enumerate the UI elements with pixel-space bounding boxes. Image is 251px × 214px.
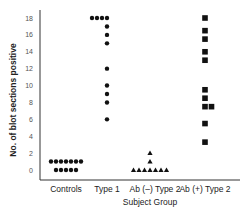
circle-marker (95, 16, 99, 20)
circle-marker (69, 168, 73, 172)
circle-marker (49, 159, 53, 163)
y-tick-label: 8 (29, 99, 33, 106)
y-tick-label: 10 (25, 82, 33, 89)
y-tick-label: 14 (25, 48, 33, 55)
circle-marker (105, 16, 109, 20)
y-axis-label: No. of blot sections positive (8, 43, 18, 157)
square-marker (202, 49, 208, 55)
y-tick-label: 4 (29, 133, 33, 140)
square-marker (202, 121, 208, 127)
circle-marker (59, 159, 63, 163)
triangle-marker (142, 167, 147, 172)
triangle-marker (147, 167, 152, 172)
circle-marker (59, 168, 63, 172)
square-marker (202, 139, 208, 145)
triangle-marker (164, 167, 169, 172)
y-axis-title: No. of blot sections positive (8, 43, 18, 157)
circle-marker (105, 41, 109, 45)
circle-marker (100, 16, 104, 20)
y-axis-ticks: 024681012141618 (25, 15, 33, 174)
triangle-marker (147, 151, 152, 156)
circle-marker (74, 159, 78, 163)
x-category-label: Ab (+) Type 2 (179, 184, 230, 194)
triangle-marker (136, 167, 141, 172)
circle-marker (79, 159, 83, 163)
scatter-chart: No. of blot sections positive 0246810121… (0, 0, 251, 214)
circle-marker (105, 100, 109, 104)
data-points (49, 15, 215, 172)
circle-marker (105, 24, 109, 28)
circle-marker (105, 117, 109, 121)
x-category-label: Controls (50, 184, 82, 194)
circle-marker (74, 168, 78, 172)
circle-marker (105, 83, 109, 87)
y-tick-label: 0 (29, 167, 33, 174)
square-marker (202, 15, 208, 21)
circle-marker (64, 159, 68, 163)
y-tick-label: 18 (25, 15, 33, 22)
square-marker (202, 87, 208, 93)
square-marker (202, 28, 208, 34)
x-axis-title: Subject Group (123, 197, 178, 207)
circle-marker (105, 66, 109, 70)
x-axis-categories: ControlsType 1Ab (–) Type 2Ab (+) Type 2 (50, 184, 231, 194)
circle-marker (54, 168, 58, 172)
circle-marker (105, 33, 109, 37)
square-marker (202, 57, 208, 63)
triangle-marker (158, 167, 163, 172)
triangle-marker (131, 167, 136, 172)
x-category-label: Type 1 (94, 184, 120, 194)
y-tick-label: 2 (29, 150, 33, 157)
y-tick-label: 16 (25, 31, 33, 38)
circle-marker (69, 159, 73, 163)
circle-marker (64, 168, 68, 172)
square-marker (202, 95, 208, 101)
circle-marker (90, 16, 94, 20)
square-marker (202, 104, 208, 110)
y-tick-label: 12 (25, 65, 33, 72)
triangle-marker (153, 167, 158, 172)
triangle-marker (147, 159, 152, 164)
y-tick-label: 6 (29, 116, 33, 123)
square-marker (209, 104, 215, 110)
circle-marker (54, 159, 58, 163)
circle-marker (105, 92, 109, 96)
x-category-label: Ab (–) Type 2 (130, 184, 181, 194)
square-marker (202, 36, 208, 42)
